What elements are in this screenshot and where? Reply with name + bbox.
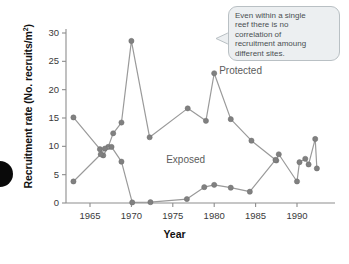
data-series [71, 38, 320, 205]
data-point [313, 136, 318, 141]
x-tick-label: 1975 [153, 210, 193, 221]
callout-box: Even within a singlereef there is nocorr… [228, 6, 340, 61]
callout-line: recruitment amoung [235, 39, 334, 48]
data-point [202, 185, 207, 190]
series-label-exposed: Exposed [166, 154, 205, 165]
y-tick-label: 30 [33, 27, 59, 38]
series-label-protected: Protected [219, 65, 262, 76]
x-tick-label: 1980 [194, 210, 234, 221]
data-point [185, 106, 190, 111]
y-tick-label: 10 [33, 140, 59, 151]
x-tick-label: 1970 [111, 210, 151, 221]
data-point [147, 135, 152, 140]
callout-line: different sites. [235, 49, 334, 58]
data-point [276, 152, 281, 157]
data-point [97, 147, 102, 152]
x-axis-label: Year [0, 228, 349, 240]
data-point [130, 200, 135, 205]
callout-line: Even within a single [235, 11, 334, 20]
data-point [119, 159, 124, 164]
data-point [212, 182, 217, 187]
data-point [203, 118, 208, 123]
y-tick-label: 5 [33, 169, 59, 180]
callout-text: Even within a singlereef there is nocorr… [235, 11, 334, 58]
data-point [98, 152, 103, 157]
data-point [119, 120, 124, 125]
data-point [228, 185, 233, 190]
y-tick-label: 15 [33, 112, 59, 123]
y-tick-label: 0 [33, 197, 59, 208]
data-point [314, 166, 319, 171]
y-tick-label: 20 [33, 84, 59, 95]
data-point [184, 196, 189, 201]
data-point [294, 179, 299, 184]
chart-figure: Recruitment rate (No. recruits/m2) Year … [0, 0, 349, 264]
data-point [71, 179, 76, 184]
data-point [102, 146, 107, 151]
x-tick-label: 1965 [70, 210, 110, 221]
callout-line: correlation of [235, 30, 334, 39]
data-point [273, 157, 278, 162]
data-point [109, 144, 114, 149]
data-point [129, 38, 134, 43]
data-point [111, 131, 116, 136]
y-tick-label: 25 [33, 55, 59, 66]
data-point [148, 200, 153, 205]
data-point [306, 162, 311, 167]
data-point [249, 138, 254, 143]
data-point [303, 156, 308, 161]
data-point [228, 117, 233, 122]
callout-line: reef there is no [235, 20, 334, 29]
data-point [71, 115, 76, 120]
data-point [247, 189, 252, 194]
data-point [297, 160, 302, 165]
x-tick-label: 1990 [277, 210, 317, 221]
data-point [212, 71, 217, 76]
x-tick-label: 1985 [236, 210, 276, 221]
